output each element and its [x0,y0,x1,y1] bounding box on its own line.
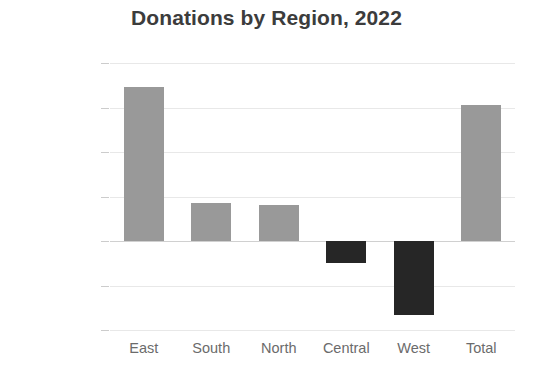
y-tick-mark [101,63,109,64]
y-tick-mark [101,197,109,198]
y-tick-mark [101,241,109,242]
gridline [110,330,515,331]
x-axis-tick-label-east: East [110,340,178,356]
bar-total[interactable] [461,105,501,241]
x-axis-tick-label-north: North [245,340,313,356]
y-tick-mark [101,108,109,109]
bar-east[interactable] [124,87,164,241]
gridline [110,197,515,198]
plot-area [110,63,515,330]
gridline [110,286,515,287]
y-axis: $40,000$30,000$20,000$10,000$0-$10,000-$… [0,0,110,390]
x-axis-tick-label-total: Total [448,340,516,356]
gridline [110,108,515,109]
donations-bar-chart: Donations by Region, 2022 $40,000$30,000… [0,0,533,390]
bar-central[interactable] [326,241,366,263]
y-tick-mark [101,330,109,331]
bar-west[interactable] [394,241,434,315]
gridline [110,63,515,64]
x-axis-tick-label-west: West [380,340,448,356]
y-tick-mark [101,152,109,153]
x-axis: EastSouthNorthCentralWestTotal [110,340,515,368]
bar-north[interactable] [259,205,299,241]
y-tick-mark [101,286,109,287]
gridline [110,152,515,153]
x-axis-tick-label-central: Central [313,340,381,356]
zero-line [110,241,515,242]
bar-south[interactable] [191,203,231,241]
x-axis-tick-label-south: South [178,340,246,356]
